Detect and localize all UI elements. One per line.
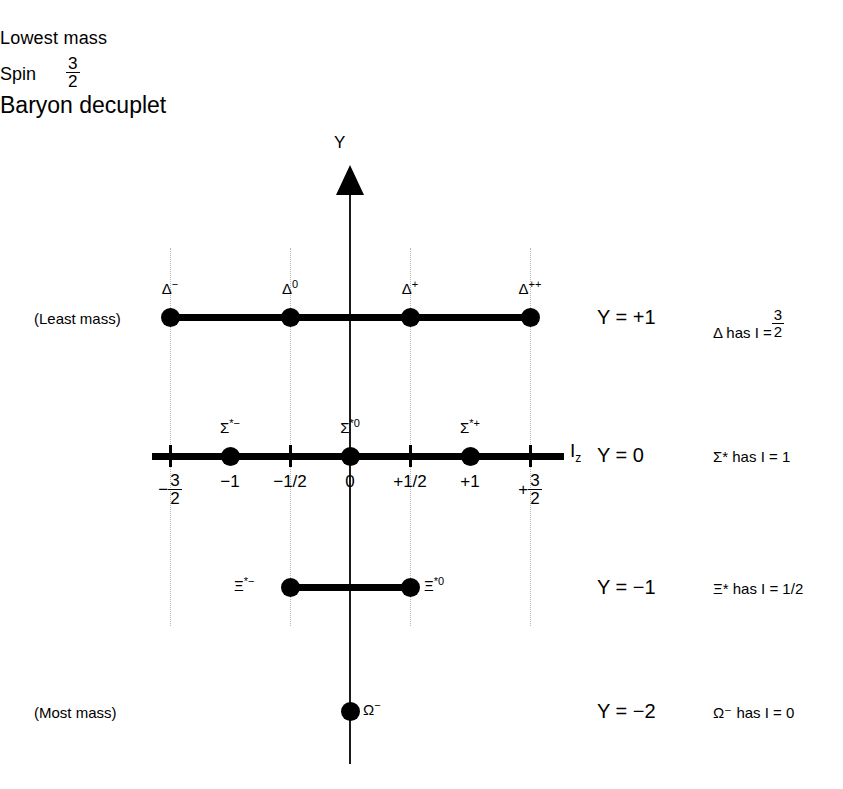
particle-symbol-delta-2: Δ: [402, 280, 412, 297]
y-value-sigma-star: Y = 0: [597, 444, 644, 467]
x-tick-label-neg-three-halves-fraction: 32: [168, 472, 181, 508]
x-tick-neg-three-halves: [169, 445, 172, 467]
isospin-note-xi-star: Ξ* has I = 1/2: [713, 580, 803, 597]
particle-label-delta-3: Δ++: [508, 278, 552, 297]
isospin-note-omega: Ω⁻ has I = 0: [713, 704, 794, 722]
title-spin-row: Spin32: [0, 57, 843, 93]
isospin-delta-fraction: 32: [772, 307, 784, 339]
spin-fraction: 32: [66, 55, 80, 91]
particle-dot-sigma-star-0: [221, 447, 240, 466]
particle-charge-xi-star-0: *−: [244, 575, 255, 587]
particle-charge-delta-3: ++: [529, 278, 542, 290]
x-tick-label-neg-three-halves-sign: −: [158, 480, 168, 500]
particle-label-xi-star-0: Ξ*−: [234, 575, 254, 594]
spin-denominator: 2: [66, 72, 80, 90]
isospin-delta-numerator: 3: [772, 307, 784, 322]
isospin-note-delta-text: Δ has I =: [713, 324, 772, 341]
isospin-note-sigma-star: Σ* has I = 1: [713, 448, 790, 465]
particle-charge-delta-1: 0: [292, 278, 298, 290]
particle-dot-xi-star-1: [401, 578, 420, 597]
particle-symbol-delta-0: Δ: [162, 280, 172, 297]
x-tick-label-neg-three-halves-value: −32: [158, 472, 181, 508]
y-axis-arrowhead-icon: [336, 165, 364, 195]
particle-charge-delta-2: +: [412, 278, 418, 290]
baryon-decuplet-figure: Lowest mass Spin32 Baryon decuplet Y Iz …: [0, 0, 843, 789]
particle-dot-sigma-star-2: [461, 447, 480, 466]
x-tick-pos-one-half: [409, 445, 412, 467]
most-mass-label: (Most mass): [34, 704, 117, 721]
multiplet-line-delta: [170, 314, 530, 321]
isospin-delta-denominator: 2: [772, 323, 784, 339]
gridline-pos-three-halves: [530, 248, 531, 626]
particle-charge-xi-star-1: *0: [434, 575, 444, 587]
isospin-note-delta: Δ has I =32: [713, 309, 784, 341]
y-value-xi-star: Y = −1: [597, 576, 656, 599]
y-value-delta: Y = +1: [597, 306, 656, 329]
particle-label-omega-0: Ω−: [363, 699, 381, 718]
spin-numerator: 3: [66, 55, 80, 72]
particle-label-delta-0: Δ−: [148, 278, 192, 297]
particle-label-sigma-star-1: Σ*0: [328, 417, 372, 436]
x-tick-label-pos-three-halves-fraction: 32: [528, 472, 541, 508]
particle-label-delta-1: Δ0: [268, 278, 312, 297]
particle-symbol-xi-star-0: Ξ: [234, 577, 244, 594]
particle-dot-delta-0: [161, 308, 180, 327]
particle-label-xi-star-1: Ξ*0: [424, 575, 444, 594]
x-tick-label-pos-three-halves-numerator: 3: [528, 472, 541, 489]
particle-dot-delta-2: [401, 308, 420, 327]
x-tick-label-pos-three-halves-value: +32: [518, 472, 541, 508]
particle-dot-xi-star-0: [281, 578, 300, 597]
particle-charge-delta-0: −: [172, 278, 178, 290]
particle-charge-sigma-star-0: *−: [229, 417, 240, 429]
least-mass-label: (Least mass): [34, 310, 121, 327]
gridline-pos-one-half: [410, 248, 411, 626]
multiplet-line-xi-star: [290, 584, 410, 591]
particle-symbol-delta-1: Δ: [282, 280, 292, 297]
particle-charge-sigma-star-1: *0: [349, 417, 359, 429]
particle-label-sigma-star-2: Σ*+: [448, 417, 492, 436]
particle-symbol-sigma-star-2: Σ: [460, 419, 469, 436]
particle-symbol-sigma-star-0: Σ: [220, 419, 229, 436]
y-value-omega: Y = −2: [597, 700, 656, 723]
x-tick-label-pos-three-halves-sign: +: [518, 480, 528, 500]
title-baryon-decuplet: Baryon decuplet: [0, 92, 843, 119]
particle-symbol-xi-star-1: Ξ: [424, 577, 434, 594]
particle-charge-omega-0: −: [374, 699, 380, 711]
gridline-neg-three-halves: [170, 248, 171, 626]
title-lowest-mass: Lowest mass: [0, 28, 843, 49]
spin-word: Spin: [0, 64, 36, 85]
x-tick-label-neg-three-halves-denominator: 2: [168, 489, 181, 507]
x-axis-label-sub: z: [575, 451, 581, 465]
x-tick-neg-one-half: [289, 445, 292, 467]
particle-dot-delta-1: [281, 308, 300, 327]
particle-charge-sigma-star-2: *+: [469, 417, 480, 429]
x-tick-label-pos-three-halves: +32: [490, 472, 570, 508]
particle-label-delta-2: Δ+: [388, 278, 432, 297]
particle-label-sigma-star-0: Σ*−: [208, 417, 252, 436]
x-tick-label-neg-three-halves-numerator: 3: [168, 472, 181, 489]
particle-dot-sigma-star-1: [341, 447, 360, 466]
x-tick-pos-three-halves: [529, 445, 532, 467]
particle-dot-omega-0: [341, 702, 360, 721]
x-tick-label-pos-three-halves-denominator: 2: [528, 489, 541, 507]
gridline-neg-one-half: [290, 248, 291, 626]
y-axis-label: Y: [334, 133, 345, 153]
particle-symbol-delta-3: Δ: [519, 280, 529, 297]
particle-symbol-omega-0: Ω: [363, 701, 374, 718]
particle-dot-delta-3: [521, 308, 540, 327]
x-axis-label: Iz: [570, 440, 581, 465]
